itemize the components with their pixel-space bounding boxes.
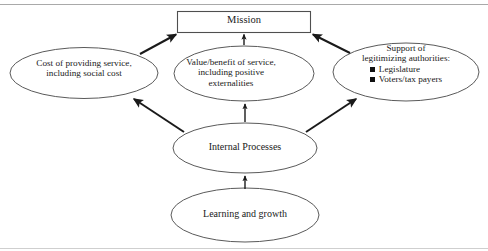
strategy-map-diagram: Mission Cost of providing service, inclu… bbox=[0, 0, 488, 251]
edge-cost-to-mission bbox=[140, 35, 176, 55]
edge-support-to-mission bbox=[313, 35, 350, 54]
node-internal-shape[interactable] bbox=[173, 123, 317, 173]
node-value-shape[interactable] bbox=[174, 46, 314, 101]
node-cost-shape[interactable] bbox=[10, 48, 158, 99]
diagram-canvas bbox=[0, 0, 488, 251]
node-support-shape[interactable] bbox=[333, 43, 479, 101]
node-learning-shape[interactable] bbox=[171, 188, 319, 242]
edge-internal-to-cost bbox=[134, 99, 184, 132]
node-mission-shape[interactable] bbox=[178, 12, 311, 33]
edge-internal-to-support bbox=[306, 99, 356, 132]
